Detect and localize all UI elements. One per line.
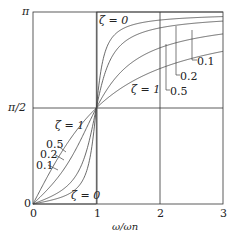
label-zeta1-right: ζ = 1 (131, 84, 160, 95)
label-leaders (48, 26, 197, 170)
y-tick-pi: π (22, 6, 29, 17)
curve-zeta-0.1 (33, 17, 223, 204)
x-tick-0: 0 (30, 208, 37, 219)
label-left-0.1: 0.1 (36, 160, 54, 171)
label-right-0.5: 0.5 (170, 86, 188, 97)
label-right-0.2: 0.2 (180, 71, 198, 82)
label-zeta1-left: ζ = 1 (55, 120, 84, 131)
phase-plot (0, 0, 236, 236)
x-axis-label: ω/ωn (112, 222, 138, 232)
label-zeta0-bottom: ζ = 0 (71, 190, 100, 201)
x-tick-3: 3 (220, 208, 227, 219)
label-right-0.1: 0.1 (197, 56, 215, 67)
curve-zeta-0.2 (33, 21, 223, 204)
x-tick-1: 1 (94, 208, 101, 219)
y-tick-half-pi: π/2 (8, 102, 26, 113)
x-tick-2: 2 (157, 208, 164, 219)
label-zeta0-top: ζ = 0 (99, 15, 128, 26)
grid (33, 12, 223, 204)
